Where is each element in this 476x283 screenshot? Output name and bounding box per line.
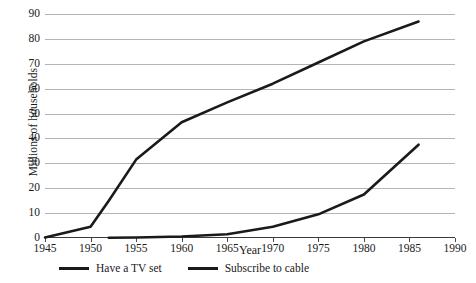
series-line bbox=[109, 145, 419, 238]
line-chart-figure: Millions of households 01020304050607080… bbox=[0, 0, 476, 283]
y-tick-label: 30 bbox=[29, 158, 41, 170]
plot-area: 0102030405060708090 19451950195519601965… bbox=[45, 14, 455, 238]
y-tick-label: 20 bbox=[29, 182, 41, 194]
series-lines-group bbox=[45, 14, 455, 238]
legend-label: Have a TV set bbox=[96, 263, 162, 275]
chart-legend: Have a TV setSubscribe to cable bbox=[45, 263, 455, 275]
legend-line-swatch bbox=[188, 267, 218, 270]
y-tick-label: 80 bbox=[29, 33, 41, 45]
y-tick-label: 90 bbox=[29, 8, 41, 20]
legend-entry[interactable]: Have a TV set bbox=[59, 263, 162, 275]
y-tick-label: 40 bbox=[29, 133, 41, 145]
x-axis-title: Year bbox=[45, 243, 455, 258]
y-tick-label: 60 bbox=[29, 83, 41, 95]
legend-label: Subscribe to cable bbox=[225, 263, 309, 275]
y-tick-label: 70 bbox=[29, 58, 41, 70]
y-tick-label: 50 bbox=[29, 108, 41, 120]
legend-line-swatch bbox=[59, 267, 89, 270]
y-tick-label: 10 bbox=[29, 207, 41, 219]
series-line bbox=[45, 21, 419, 237]
legend-entry[interactable]: Subscribe to cable bbox=[188, 263, 309, 275]
